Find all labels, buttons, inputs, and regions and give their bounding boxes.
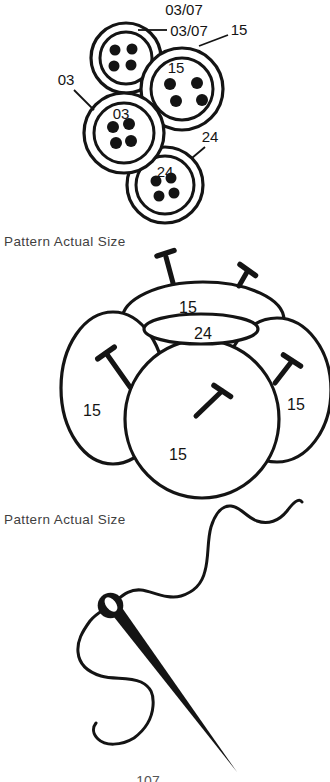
- button-hole: [107, 121, 119, 133]
- flower-center-label: 15: [169, 446, 187, 463]
- callout-24: 24: [202, 128, 219, 145]
- callout-0307: 03/07: [170, 22, 208, 39]
- pattern-book-page: 24 15 03 03/07 03/07 15: [0, 0, 330, 782]
- button-hole: [196, 94, 208, 106]
- button-hole: [110, 45, 121, 56]
- button-hole: [170, 95, 182, 107]
- button-hole: [154, 191, 165, 202]
- flower-top-label: 15: [179, 299, 197, 316]
- callout-15: 15: [231, 21, 248, 38]
- flower-diagram: 15 24 15 15 15 Pattern Actual Size: [4, 251, 330, 528]
- button-hole: [127, 44, 138, 55]
- button-03-label: 03: [113, 105, 130, 122]
- button-hole: [191, 77, 203, 89]
- buttons-diagram: 24 15 03 03/07 03/07 15: [4, 1, 247, 249]
- flower-right-label: 15: [287, 396, 305, 413]
- button-hole: [169, 188, 180, 199]
- button-hole: [164, 78, 176, 90]
- button-24-label: 24: [157, 163, 174, 180]
- leader-line-03: [74, 90, 94, 110]
- page-number: 107: [136, 773, 160, 782]
- page-artwork: 24 15 03 03/07 03/07 15: [0, 0, 330, 782]
- t-pin-icon: [157, 251, 174, 284]
- callout-0307-top: 03/07: [165, 1, 203, 18]
- flower-center-petal: [125, 340, 279, 498]
- caption-pattern-actual-size-1: Pattern Actual Size: [4, 234, 126, 249]
- button-hole: [109, 61, 120, 72]
- flower-ellipse-label: 24: [194, 325, 212, 342]
- caption-pattern-actual-size-2: Pattern Actual Size: [4, 512, 126, 527]
- button-hole: [126, 60, 137, 71]
- t-pin-icon: [239, 265, 256, 287]
- flower-left-label: 15: [83, 402, 101, 419]
- button-15-label: 15: [168, 59, 185, 76]
- leader-line-24: [192, 147, 205, 158]
- needle-thread-illustration: [78, 500, 302, 772]
- callout-03: 03: [58, 71, 75, 88]
- button-03: 03: [84, 93, 164, 173]
- button-hole: [110, 137, 122, 149]
- button-hole: [125, 135, 137, 147]
